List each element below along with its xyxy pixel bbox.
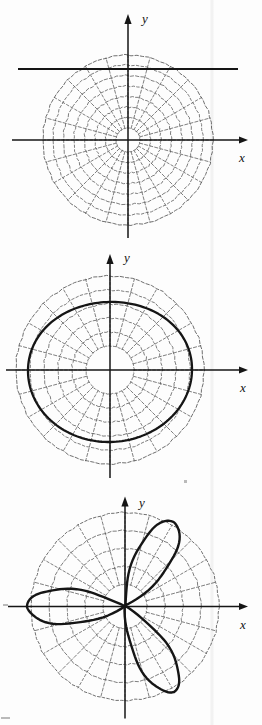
panel-rose-svg: y x	[0, 484, 262, 725]
panel-limacon-svg: y x	[0, 242, 262, 484]
axes-top	[12, 14, 248, 238]
x-axis-label: x	[239, 380, 246, 395]
panel-horizontal-line-svg: y x	[0, 0, 262, 242]
x-axis-label: x	[239, 617, 246, 632]
polar-figures-sheet: y x y x y x	[0, 0, 262, 725]
x-axis-label: x	[238, 150, 245, 165]
figure-panel-three-petal-rose: y x	[0, 484, 262, 725]
figure-panel-horizontal-line: y x	[0, 0, 262, 242]
y-axis-label: y	[137, 495, 145, 510]
figure-panel-limacon: y x	[0, 242, 262, 484]
axes-middle	[6, 254, 248, 478]
y-axis-label: y	[140, 11, 148, 26]
y-axis-label: y	[122, 250, 130, 265]
